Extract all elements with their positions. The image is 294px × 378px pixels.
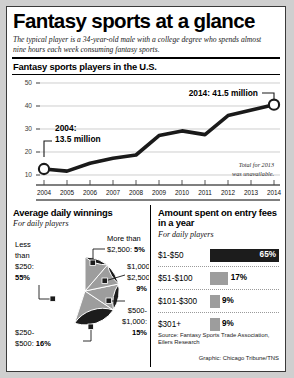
bar-fill-101-300 [210, 295, 220, 308]
x-tick-2007: 2007 [106, 189, 121, 196]
x-tick-2006: 2006 [83, 189, 98, 196]
x-tick-2005: 2005 [60, 189, 75, 196]
pie-label-less-than-250: Less than $250: 55% [15, 240, 34, 282]
x-tick-2011: 2011 [198, 189, 212, 196]
svg-text:15%: 15% [132, 328, 147, 337]
bottom-panels: Average daily winnings For daily players [7, 205, 285, 367]
annotation-2004: 2004: 13.5 million [39, 123, 101, 174]
pie-chart-title: Average daily winnings [13, 208, 146, 219]
bar-panel: Amount spent on entry fees in a year For… [150, 205, 285, 367]
svg-text:More than: More than [107, 234, 141, 243]
bar-row-1-50: $1-$50 65% [158, 244, 279, 266]
svg-text:Less: Less [15, 240, 31, 249]
x-tick-2012: 2012 [221, 189, 236, 196]
pie-label-more-than-2500: More than $2,500: 5% [107, 234, 145, 254]
bar-fill-301-plus [210, 318, 220, 331]
bar-label-1-50: $1-$50 [158, 251, 210, 260]
line-chart-svg: 50 40 30 20 10 2004: 13.5 million [12, 75, 282, 203]
svg-text:30: 30 [25, 125, 33, 132]
x-tick-2014: 2014 [267, 189, 282, 196]
bar-row-51-100: $51-$100 17% [158, 267, 279, 289]
bar-label-101-300: $101-$300 [158, 297, 210, 306]
pie-chart-svg: Less than $250: 55% $250- $500: 16% $500… [13, 229, 149, 355]
svg-text:55%: 55% [15, 273, 30, 282]
bar-chart: $1-$50 65% $51-$100 17% $101-$ [158, 244, 279, 335]
header: Fantasy sports at a glance The typical p… [7, 7, 285, 54]
line-chart: 50 40 30 20 10 2004: 13.5 million [12, 75, 280, 203]
pie-chart: Less than $250: 55% $250- $500: 16% $500… [13, 229, 146, 357]
bar-track-101-300: 9% [210, 295, 279, 308]
svg-text:Total for 2013: Total for 2013 [239, 161, 274, 168]
bar-track-1-50: 65% [210, 249, 279, 262]
x-axis-ticklabels: 2004 2005 2006 2007 2008 2009 2010 2011 … [37, 189, 282, 196]
bar-value-51-100: 17% [231, 273, 247, 282]
annotation-2013-unavailable: Total for 2013 was unavailable. [232, 161, 274, 177]
pie-slices [75, 257, 120, 325]
x-tick-2010: 2010 [175, 189, 190, 196]
pie-label-500-1000: $500- $1,000: 15% [122, 306, 148, 337]
svg-text:9%: 9% [136, 284, 147, 293]
svg-text:$1,000:: $1,000: [122, 317, 147, 326]
x-axis-tickmarks [44, 180, 274, 185]
y-axis-ticklabels: 50 40 30 20 10 [25, 79, 33, 178]
svg-text:$250-: $250- [15, 328, 35, 337]
svg-text:10: 10 [25, 171, 33, 178]
bar-fill-51-100 [210, 272, 228, 285]
x-tick-2009: 2009 [152, 189, 167, 196]
source-text: Source: Fantasy Sports Trade Association… [158, 332, 285, 347]
line-chart-title: Fantasy sports players in the U.S. [7, 59, 285, 74]
infographic-panel: Fantasy sports at a glance The typical p… [6, 6, 286, 372]
x-tick-2008: 2008 [129, 189, 144, 196]
svg-text:50: 50 [25, 79, 33, 86]
bar-value-101-300: 9% [222, 296, 234, 305]
data-point-marker-2014 [269, 100, 279, 110]
pie-label-1000-2500: $1,000- $2,500: 9% [127, 262, 149, 293]
bar-value-1-50: 65% [260, 250, 276, 259]
credit-text: Graphic: Chicago Tribune/TNS [199, 355, 279, 361]
svg-text:13.5 million: 13.5 million [55, 133, 101, 143]
bar-track-301-plus: 9% [210, 318, 279, 331]
svg-text:20: 20 [25, 148, 33, 155]
header-subtitle: The typical player is a 34-year-old male… [13, 35, 279, 54]
bar-label-301-plus: $301+ [158, 320, 210, 329]
svg-text:was unavailable.: was unavailable. [232, 169, 274, 176]
pie-chart-subtitle: For daily players [13, 219, 146, 228]
svg-text:40: 40 [25, 102, 33, 109]
bar-row-101-300: $101-$300 9% [158, 290, 279, 312]
y-axis-tickmarks [36, 83, 40, 175]
svg-text:$500: 16%: $500: 16% [15, 339, 51, 348]
data-point-marker-2004 [39, 164, 49, 174]
x-tick-2004: 2004 [37, 189, 52, 196]
x-tick-2013: 2013 [244, 189, 259, 196]
svg-text:$500-: $500- [128, 306, 148, 315]
svg-text:$2,500: 5%: $2,500: 5% [107, 245, 145, 254]
pie-label-250-500: $250- $500: 16% [15, 328, 51, 348]
svg-text:2014: 41.5 million: 2014: 41.5 million [189, 88, 258, 98]
svg-text:$1,000-: $1,000- [127, 262, 149, 271]
bar-chart-title: Amount spent on entry fees in a year [158, 208, 279, 229]
page-title: Fantasy sports at a glance [13, 11, 279, 32]
svg-text:2004:: 2004: [55, 123, 76, 133]
bar-label-51-100: $51-$100 [158, 274, 210, 283]
svg-text:$2,500:: $2,500: [127, 273, 149, 282]
svg-text:$250:: $250: [15, 262, 34, 271]
bar-track-51-100: 17% [210, 272, 279, 285]
svg-text:than: than [15, 251, 30, 260]
pie-panel: Average daily winnings For daily players [7, 205, 150, 367]
bar-value-301-plus: 9% [222, 319, 234, 328]
bar-chart-subtitle: For daily players [158, 230, 279, 239]
